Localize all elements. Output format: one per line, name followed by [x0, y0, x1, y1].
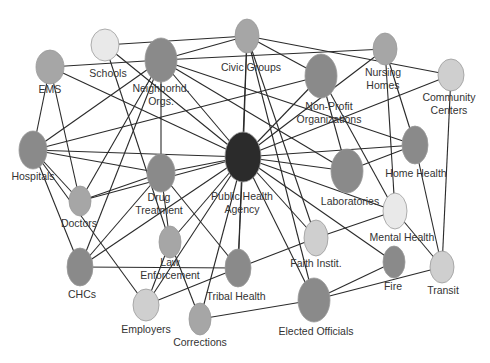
node-elected — [298, 278, 330, 322]
node-label-line: Transit — [427, 284, 459, 296]
node-pha — [225, 132, 261, 182]
node-label-doctors: Doctors — [61, 217, 97, 229]
node-labs — [331, 149, 363, 193]
node-nursing — [373, 33, 397, 65]
node-drug — [147, 154, 175, 192]
node-label-line: Non-Profit — [305, 100, 352, 112]
edge-elected-transit — [314, 267, 442, 300]
node-civic — [235, 19, 259, 53]
node-label-line: Nursing — [365, 66, 401, 78]
node-tribal — [225, 249, 251, 287]
node-community — [438, 59, 464, 91]
node-label-line: Fire — [384, 280, 402, 292]
node-label-line: Agency — [224, 203, 260, 215]
node-label-line: Enforcement — [140, 269, 200, 281]
node-label-line: Drug — [148, 191, 171, 203]
node-homehealth — [402, 126, 428, 164]
edge-ems-pha — [50, 67, 243, 157]
node-label-employers: Employers — [121, 323, 171, 335]
node-ems — [36, 50, 64, 84]
node-mental — [383, 193, 407, 229]
node-label-line: Elected Officials — [278, 325, 353, 337]
node-label-transit: Transit — [427, 284, 459, 296]
node-label-tribal: Tribal Health — [206, 290, 265, 302]
node-label-line: Schools — [89, 67, 126, 79]
node-label-hospitals: Hospitals — [11, 170, 54, 182]
node-label-civic: Civic Groups — [221, 61, 281, 73]
node-faith — [304, 220, 328, 256]
node-label-line: Public Health — [211, 190, 273, 202]
node-label-line: Civic Groups — [221, 61, 281, 73]
node-corrections — [189, 303, 211, 335]
node-label-line: Faith Instit. — [290, 257, 341, 269]
node-doctors — [69, 186, 91, 216]
edge-corrections-elected — [200, 300, 314, 319]
node-label-line: Organizations — [297, 113, 362, 125]
node-label-line: Community — [422, 91, 476, 103]
edge-nonprofit-mental — [321, 76, 395, 211]
node-chcs — [67, 248, 93, 286]
node-label-line: Employers — [121, 323, 171, 335]
node-label-homehealth: Home Health — [385, 167, 446, 179]
node-label-line: Centers — [431, 104, 468, 116]
node-label-community: CommunityCenters — [422, 91, 476, 116]
node-nonprofit — [305, 54, 337, 98]
node-hospitals — [19, 131, 47, 169]
node-label-schools: Schools — [89, 67, 126, 79]
node-label-chcs: CHCs — [68, 288, 96, 300]
node-law — [159, 226, 181, 258]
node-employers — [133, 289, 159, 321]
node-label-line: Laboratories — [321, 195, 379, 207]
node-label-corrections: Corrections — [173, 336, 227, 348]
node-label-pha: Public HealthAgency — [211, 190, 273, 215]
node-label-fire: Fire — [384, 280, 402, 292]
node-label-nursing: NursingHomes — [365, 66, 401, 91]
node-label-line: Home Health — [385, 167, 446, 179]
node-label-line: Corrections — [173, 336, 227, 348]
node-label-law: LawEnforcement — [140, 256, 200, 281]
node-label-mental: Mental Health — [370, 231, 435, 243]
node-fire — [383, 246, 405, 278]
node-label-line: Homes — [366, 79, 399, 91]
node-label-faith: Faith Instit. — [290, 257, 341, 269]
node-label-line: Treatment — [135, 204, 183, 216]
node-neighborhood — [145, 38, 177, 82]
node-label-ems: EMS — [39, 83, 62, 95]
node-label-line: CHCs — [68, 288, 96, 300]
node-label-line: Orgs. — [148, 95, 174, 107]
node-label-line: Hospitals — [11, 170, 54, 182]
node-label-line: Doctors — [61, 217, 97, 229]
node-label-line: Neighborhd. — [132, 82, 189, 94]
node-label-line: Mental Health — [370, 231, 435, 243]
node-label-line: Tribal Health — [206, 290, 265, 302]
edge-schools-civic — [105, 36, 247, 45]
node-label-line: EMS — [39, 83, 62, 95]
node-label-elected: Elected Officials — [278, 325, 353, 337]
node-label-nonprofit: Non-ProfitOrganizations — [297, 100, 362, 125]
node-transit — [430, 251, 454, 283]
node-label-line: Law — [160, 256, 180, 268]
node-schools — [91, 29, 119, 61]
node-label-labs: Laboratories — [321, 195, 379, 207]
network-diagram: EMSSchoolsNeighborhd.Orgs.Civic GroupsNo… — [0, 0, 490, 363]
